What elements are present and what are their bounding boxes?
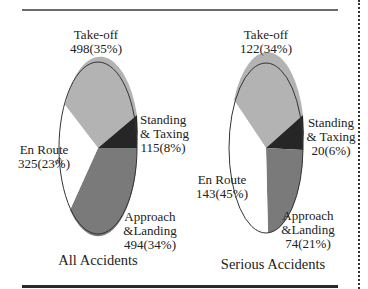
title-serious-accidents: Serious Accidents	[218, 256, 328, 273]
label-all-approach: Approach &Landing 494(34%)	[118, 210, 182, 252]
label-value: 494(34%)	[118, 238, 182, 252]
title-all-accidents: All Accidents	[48, 252, 148, 269]
label-name-2: & Taxing	[140, 127, 186, 141]
label-value: 143(45%)	[194, 187, 250, 201]
label-name: En Route	[16, 143, 72, 157]
label-name: Standing	[140, 113, 186, 127]
label-value: 122(34%)	[236, 42, 296, 56]
label-serious-standing: Standing & Taxing 20(6%)	[306, 116, 356, 158]
label-name: Approach	[276, 209, 340, 223]
label-serious-enroute: En Route 143(45%)	[194, 173, 250, 201]
label-name: Take-off	[236, 28, 296, 42]
label-all-enroute: En Route 325(23%)	[16, 143, 72, 171]
label-value: 20(6%)	[306, 144, 356, 158]
label-value: 74(21%)	[276, 237, 340, 251]
label-name-2: & Taxing	[306, 130, 356, 144]
label-name: En Route	[194, 173, 250, 187]
label-value: 498(35%)	[66, 42, 126, 56]
label-name-2: &Landing	[118, 224, 182, 238]
label-all-takeoff: Take-off 498(35%)	[66, 28, 126, 56]
label-value: 325(23%)	[16, 157, 72, 171]
label-serious-takeoff: Take-off 122(34%)	[236, 28, 296, 56]
label-name-2: &Landing	[276, 223, 340, 237]
pie-serious-accidents	[227, 52, 303, 233]
label-name: Standing	[306, 116, 356, 130]
label-name: Take-off	[66, 28, 126, 42]
label-value: 115(8%)	[140, 141, 186, 155]
label-name: Approach	[118, 210, 182, 224]
label-all-standing: Standing & Taxing 115(8%)	[140, 113, 186, 155]
label-serious-approach: Approach &Landing 74(21%)	[276, 209, 340, 251]
